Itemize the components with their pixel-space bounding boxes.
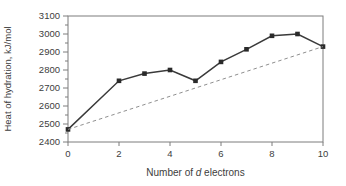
heat-of-hydration-marker [295, 32, 300, 37]
heat-of-hydration-marker [219, 60, 224, 65]
y-axis-title: Heat of hydration, kJ/mol [2, 26, 13, 131]
y-tick-label: 2800 [39, 64, 60, 75]
heat-of-hydration-marker [142, 71, 147, 76]
heat-of-hydration-marker [193, 79, 198, 84]
y-tick-label: 2700 [39, 82, 60, 93]
x-tick-label: 4 [167, 148, 172, 159]
hydration-chart: 240025002600270028002900300031000246810H… [0, 0, 346, 186]
linear-reference-line [68, 47, 323, 130]
heat-of-hydration-marker [270, 34, 275, 39]
x-tick-label: 6 [218, 148, 223, 159]
heat-of-hydration-marker [168, 68, 173, 73]
heat-of-hydration-marker [244, 47, 249, 52]
x-tick-label: 10 [318, 148, 329, 159]
y-tick-label: 2500 [39, 118, 60, 129]
x-tick-label: 2 [116, 148, 121, 159]
y-tick-label: 2600 [39, 100, 60, 111]
y-tick-label: 3100 [39, 10, 60, 21]
x-tick-label: 8 [269, 148, 274, 159]
heat-of-hydration-marker [117, 79, 122, 84]
y-tick-label: 3000 [39, 28, 60, 39]
x-tick-label: 0 [65, 148, 70, 159]
hydration-chart-svg: 240025002600270028002900300031000246810H… [0, 0, 346, 186]
x-axis-title: Number of d electrons [146, 167, 244, 178]
y-tick-label: 2900 [39, 46, 60, 57]
y-tick-label: 2400 [39, 136, 60, 147]
